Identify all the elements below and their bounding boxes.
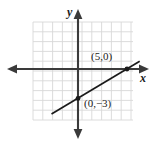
coordinate-plane-svg: (5,0) (0,−3) y x <box>0 0 158 147</box>
grid-lines <box>33 22 133 120</box>
point-marker-0-neg3 <box>76 96 81 101</box>
y-axis-label: y <box>65 5 73 19</box>
y-axis-arrow-up <box>74 9 83 19</box>
x-axis-label: x <box>139 71 146 85</box>
point-label-0-neg3: (0,−3) <box>84 97 112 110</box>
coordinate-plane-figure: (5,0) (0,−3) y x <box>0 0 158 147</box>
point-label-5-0: (5,0) <box>91 50 112 63</box>
y-axis-arrow-down <box>74 129 83 139</box>
point-marker-5-0 <box>125 67 130 72</box>
y-axis <box>74 9 83 139</box>
x-axis-arrow-left <box>7 65 17 74</box>
